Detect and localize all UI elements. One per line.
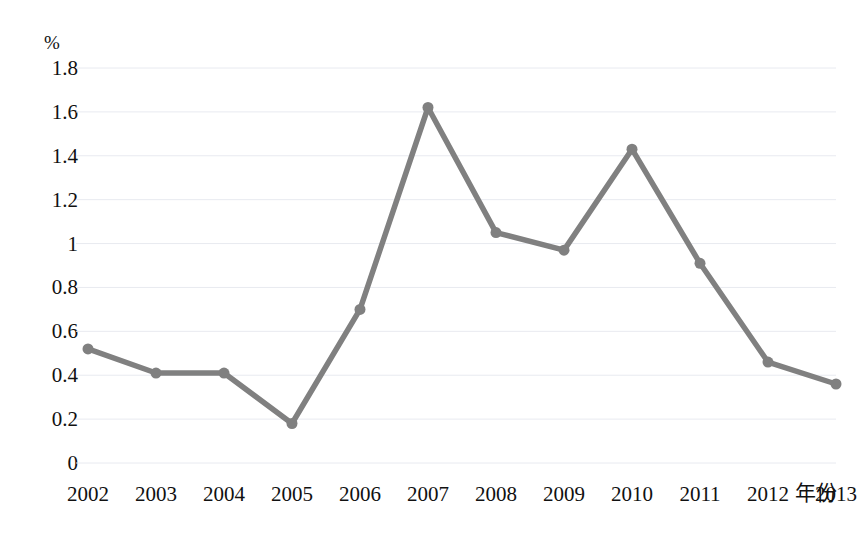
- x-axis-tick-label: 2002: [67, 484, 109, 505]
- x-axis-tick-label: 2009: [543, 484, 585, 505]
- x-axis-tick-label: 2008: [475, 484, 517, 505]
- x-axis-tick-label: 2004: [203, 484, 245, 505]
- x-axis-tick-label: 2012: [747, 484, 789, 505]
- data-series: [83, 102, 842, 429]
- data-point-marker: [287, 418, 298, 429]
- plot-area: [0, 0, 866, 542]
- data-point-marker: [763, 357, 774, 368]
- line-chart: % 1.81.61.41.210.80.60.40.20 20022003200…: [0, 0, 866, 542]
- data-point-marker: [423, 102, 434, 113]
- data-point-marker: [491, 227, 502, 238]
- data-point-marker: [831, 379, 842, 390]
- x-axis-tick-label: 2003: [135, 484, 177, 505]
- x-axis-tick-label: 2011: [679, 484, 720, 505]
- x-axis-tick-label: 2006: [339, 484, 381, 505]
- gridlines: [76, 68, 836, 463]
- x-axis-tick-label: 2007: [407, 484, 449, 505]
- data-point-marker: [219, 368, 230, 379]
- data-point-marker: [83, 343, 94, 354]
- x-axis-tick-label: 2005: [271, 484, 313, 505]
- x-axis-title: 年份: [795, 483, 837, 504]
- data-point-marker: [559, 245, 570, 256]
- data-point-marker: [151, 368, 162, 379]
- series-line: [88, 108, 836, 424]
- x-axis-tick-label: 2010: [611, 484, 653, 505]
- data-point-marker: [695, 258, 706, 269]
- data-point-marker: [627, 144, 638, 155]
- data-point-marker: [355, 304, 366, 315]
